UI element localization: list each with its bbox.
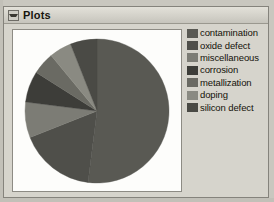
legend-item-label: corrosion xyxy=(200,65,238,75)
legend-item-label: contamination xyxy=(200,28,258,38)
legend-swatch-icon xyxy=(187,41,198,50)
legend-item[interactable]: metallization xyxy=(187,77,267,89)
legend-item-label: silicon defect xyxy=(200,103,254,113)
plot-canvas[interactable] xyxy=(12,29,182,192)
legend-swatch-icon xyxy=(187,66,198,75)
legend-item[interactable]: contamination xyxy=(187,27,267,39)
triangle-down-icon[interactable] xyxy=(8,10,19,21)
legend-swatch-icon xyxy=(187,78,198,87)
page-title: Plots xyxy=(23,10,51,21)
plots-window: Plots contaminationoxide defectmiscellan… xyxy=(3,6,269,198)
legend-swatch-icon xyxy=(187,103,198,112)
pie-chart xyxy=(13,30,181,191)
legend-swatch-icon xyxy=(187,53,198,62)
legend-swatch-icon xyxy=(187,29,198,38)
legend-item[interactable]: oxide defect xyxy=(187,39,267,51)
chart-legend: contaminationoxide defectmiscellaneousco… xyxy=(187,27,267,114)
pie-slice[interactable] xyxy=(88,39,169,183)
legend-item-label: oxide defect xyxy=(200,41,250,51)
legend-item-label: metallization xyxy=(200,78,252,88)
legend-item[interactable]: miscellaneous xyxy=(187,52,267,64)
legend-swatch-icon xyxy=(187,91,198,100)
legend-item-label: doping xyxy=(200,90,228,100)
legend-item[interactable]: doping xyxy=(187,89,267,101)
pie-chart-svg xyxy=(13,30,181,191)
legend-item[interactable]: corrosion xyxy=(187,64,267,76)
legend-item-label: miscellaneous xyxy=(200,53,259,63)
plots-titlebar: Plots xyxy=(4,7,268,24)
desktop-background: Plots contaminationoxide defectmiscellan… xyxy=(0,0,274,202)
plots-panel-body: contaminationoxide defectmiscellaneousco… xyxy=(4,24,268,197)
legend-item[interactable]: silicon defect xyxy=(187,101,267,113)
bottom-desktop-edge xyxy=(0,198,274,202)
